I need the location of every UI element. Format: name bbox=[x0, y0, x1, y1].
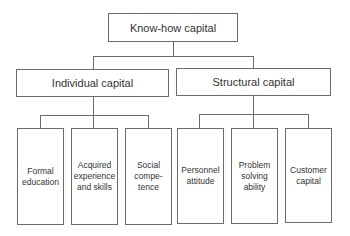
connector-to-formal-education bbox=[40, 115, 41, 128]
connector-to-individual bbox=[93, 56, 94, 69]
node-acquired-experience: Acquired experience and skills bbox=[71, 128, 118, 225]
connector-individual-horizontal bbox=[40, 115, 149, 116]
root-label: Know-how capital bbox=[130, 22, 216, 34]
node-formal-education: Formal education bbox=[17, 128, 64, 225]
formal-education-label: Formal education bbox=[19, 166, 62, 188]
node-individual-capital: Individual capital bbox=[16, 69, 169, 97]
personnel-attitude-label: Personnel attitude bbox=[179, 165, 222, 187]
connector-to-problem-solving bbox=[253, 114, 254, 128]
connector-to-acquired-experience bbox=[93, 115, 94, 128]
problem-solving-label: Problem solving ability bbox=[233, 160, 276, 193]
connector-structural-down bbox=[253, 95, 254, 114]
connector-root-horizontal bbox=[93, 56, 254, 57]
customer-capital-label: Customer capital bbox=[287, 165, 330, 187]
connector-to-customer-capital bbox=[308, 114, 309, 128]
connector-root-down bbox=[173, 41, 174, 56]
connector-structural-horizontal bbox=[199, 114, 309, 115]
node-customer-capital: Customer capital bbox=[285, 128, 332, 223]
connector-individual-down bbox=[93, 96, 94, 115]
structural-capital-label: Structural capital bbox=[213, 76, 295, 88]
node-social-competence: Social compe-tence bbox=[125, 128, 172, 225]
connector-to-structural bbox=[253, 56, 254, 68]
root-node-know-how-capital: Know-how capital bbox=[108, 13, 238, 42]
acquired-experience-label: Acquired experience and skills bbox=[73, 160, 116, 193]
connector-to-personnel-attitude bbox=[199, 114, 200, 128]
node-structural-capital: Structural capital bbox=[176, 68, 331, 96]
node-personnel-attitude: Personnel attitude bbox=[177, 128, 224, 224]
node-problem-solving-ability: Problem solving ability bbox=[231, 128, 278, 224]
connector-to-social-competence bbox=[148, 115, 149, 128]
individual-capital-label: Individual capital bbox=[52, 77, 133, 89]
social-competence-label: Social compe-tence bbox=[127, 160, 170, 193]
